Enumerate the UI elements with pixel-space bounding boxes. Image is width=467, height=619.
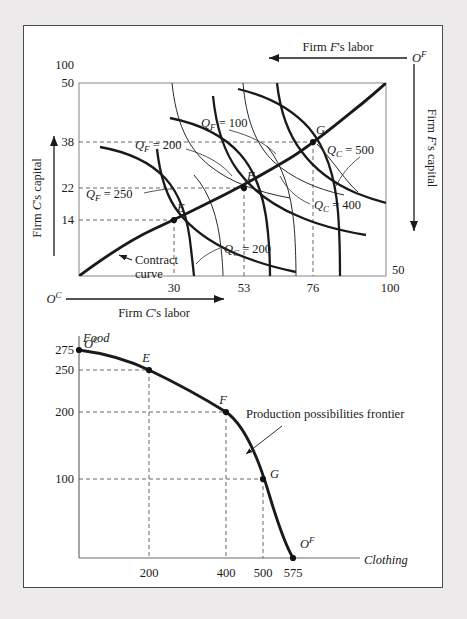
x-tick-100: 100 bbox=[381, 281, 400, 295]
ppf-curve bbox=[79, 350, 293, 558]
y-tick-100: 100 bbox=[55, 58, 74, 72]
isoquant-label-qf-100: QF = 100 bbox=[201, 116, 248, 132]
contract-curve-label-line1: Contract bbox=[135, 253, 179, 267]
ppf-x-axis-label: Clothing bbox=[364, 553, 408, 567]
right-axis-group: Firm F's capital bbox=[414, 64, 439, 231]
point-f-label: F bbox=[246, 169, 255, 183]
ppf-point-f-marker bbox=[223, 409, 229, 415]
figure-svg: Firm F's labor OF Firm F's capital Firm … bbox=[24, 26, 442, 587]
isoquant-label-qf-250: QF = 250 bbox=[86, 187, 133, 203]
point-e-label: E bbox=[176, 201, 185, 215]
left-axis-group: Firm C's capital bbox=[30, 136, 54, 256]
x-tick-76: 76 bbox=[307, 281, 320, 295]
isoquant-label-qf-200: QF = 200 bbox=[135, 138, 182, 154]
origin-f-label-top: OF bbox=[412, 49, 427, 65]
isoquant-label-qc-400: QC = 400 bbox=[314, 198, 361, 214]
ppf-point-of-marker bbox=[290, 555, 296, 561]
isoquant-qc-thin-1 bbox=[194, 175, 223, 276]
origin-c-label-bottom: OC bbox=[46, 290, 62, 306]
isoquant-label-qc-200: QC = 200 bbox=[224, 242, 271, 258]
y-tick-50: 50 bbox=[62, 76, 75, 90]
leader-qf-200 bbox=[186, 149, 232, 176]
ppf-point-oc-label: OC bbox=[84, 335, 100, 351]
ppf-y-tick-200: 200 bbox=[55, 405, 74, 419]
leader-qc-400 bbox=[280, 176, 310, 204]
x-tick-right-50: 50 bbox=[392, 263, 405, 277]
ppf-point-e-marker bbox=[146, 367, 152, 373]
isoquant-label-qc-500: QC = 500 bbox=[327, 143, 374, 159]
firm-f-capital-label: Firm F's capital bbox=[425, 109, 439, 188]
point-g-marker bbox=[310, 139, 316, 145]
ppf-point-f-label: F bbox=[218, 393, 227, 407]
ppf-point-e-label: E bbox=[141, 351, 150, 365]
point-g-label: G bbox=[316, 123, 325, 137]
edgeworth-points: E F G bbox=[171, 123, 325, 223]
y-tick-38: 38 bbox=[62, 135, 75, 149]
point-f-marker bbox=[241, 185, 247, 191]
isoquant-qc-thin-2 bbox=[267, 146, 296, 276]
ppf-frontier-label: Production possibilities frontier bbox=[246, 407, 405, 421]
point-e-marker bbox=[171, 217, 177, 223]
ppf-y-tick-250: 250 bbox=[55, 363, 74, 377]
top-axis-arrow-group: Firm F's labor OF bbox=[269, 40, 427, 65]
ppf-x-tick-400: 400 bbox=[217, 566, 236, 580]
bottom-axis-arrow-group: OC Firm C's labor bbox=[46, 290, 224, 320]
contract-curve-callout: Contract curve bbox=[119, 253, 179, 281]
leader-qc-200 bbox=[196, 248, 220, 264]
y-tick-14: 14 bbox=[62, 213, 75, 227]
contract-curve-label-line2: curve bbox=[135, 267, 163, 281]
ppf-point-oc-marker bbox=[76, 347, 82, 353]
y-tick-22: 22 bbox=[62, 181, 75, 195]
firm-c-capital-label: Firm C's capital bbox=[30, 158, 44, 238]
x-tick-53: 53 bbox=[238, 281, 251, 295]
firm-f-labor-label: Firm F's labor bbox=[302, 40, 374, 54]
ppf-point-of-label: OF bbox=[300, 535, 315, 551]
figure-panel: Firm F's labor OF Firm F's capital Firm … bbox=[23, 25, 443, 588]
ppf-y-tick-100: 100 bbox=[55, 472, 74, 486]
ppf-y-tick-275: 275 bbox=[55, 343, 74, 357]
ppf-annotation-arrow bbox=[246, 426, 282, 454]
ppf-guide-lines bbox=[79, 370, 263, 558]
ppf-point-g-marker bbox=[260, 476, 266, 482]
ppf-x-tick-500: 500 bbox=[254, 566, 273, 580]
ppf-x-tick-575: 575 bbox=[284, 566, 303, 580]
ppf-x-tick-200: 200 bbox=[140, 566, 159, 580]
x-tick-30: 30 bbox=[168, 281, 181, 295]
firm-c-labor-label: Firm C's labor bbox=[118, 306, 191, 320]
ppf-point-g-label: G bbox=[270, 467, 279, 481]
ppf-panel: Food Clothing 275 250 200 100 200 400 50… bbox=[24, 26, 408, 580]
contract-curve-arrow bbox=[119, 255, 132, 260]
